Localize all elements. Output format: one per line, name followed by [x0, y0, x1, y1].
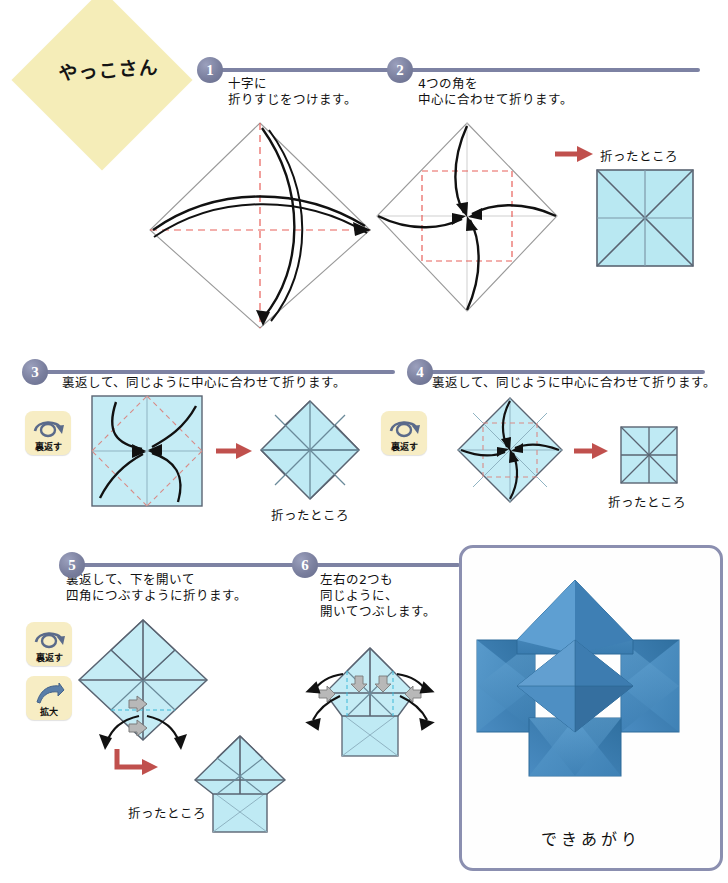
step-text-3: 裏返して、同じように中心に合わせて折ります。	[62, 375, 392, 391]
finished-origami-photo	[465, 562, 717, 812]
step-4-result-arrow	[572, 440, 610, 462]
step-text-5: 裏返して、下を開いて 四角につぶすように折ります。	[66, 572, 286, 604]
step-6-diagram	[285, 640, 455, 775]
step-2-result-arrow	[553, 143, 595, 165]
step-number-3: 3	[22, 359, 48, 385]
enlarge-arrow-icon	[33, 680, 65, 704]
step-rule-3	[35, 370, 395, 374]
step-5-result-arrow	[112, 745, 160, 783]
step-text-6: 左右の2つも 同じように、 開いてつぶします。	[320, 572, 470, 620]
flip-icon	[32, 415, 64, 439]
step-text-4: 裏返して、同じように中心に合わせて折ります。	[432, 375, 722, 391]
step-number-5: 5	[59, 552, 85, 578]
step-3-result-caption: 折ったところ	[271, 505, 349, 524]
result-photo-card: できあがり	[459, 545, 723, 871]
step-number-6: 6	[292, 552, 318, 578]
step-2-diagram	[372, 118, 562, 318]
step-number-2: 2	[387, 57, 413, 83]
step-3-result-shape	[258, 398, 362, 502]
photo-caption: できあがり	[462, 826, 720, 850]
step-5-result-caption: 折ったところ	[128, 803, 206, 822]
flip-over-badge-5: 裏返す	[26, 622, 72, 666]
step-4-result-caption: 折ったところ	[608, 492, 686, 511]
step-3-diagram	[88, 392, 206, 510]
flip-badge-label-5: 裏返す	[26, 651, 72, 664]
step-2-result-caption: 折ったところ	[600, 146, 678, 165]
step-rule-4	[420, 370, 705, 374]
step-rule-1	[210, 68, 390, 72]
flip-over-badge-4: 裏返す	[381, 411, 427, 455]
step-4-result-shape	[619, 425, 679, 485]
step-4-diagram	[455, 395, 565, 505]
enlarge-badge-label: 拡大	[26, 705, 72, 718]
step-2-result-shape	[595, 168, 695, 268]
step-text-1: 十字に 折りすじをつけます。	[228, 76, 398, 108]
step-number-4: 4	[407, 359, 433, 385]
flip-over-badge-3: 裏返す	[25, 411, 71, 455]
step-number-1: 1	[197, 57, 223, 83]
step-rule-2	[400, 68, 700, 72]
step-1-diagram	[145, 118, 375, 333]
flip-badge-label-4: 裏返す	[381, 440, 427, 453]
step-text-2: 4つの角を 中心に合わせて折ります。	[418, 76, 618, 108]
enlarge-badge-5: 拡大	[26, 676, 72, 720]
flip-badge-label-3: 裏返す	[25, 440, 71, 453]
flip-icon	[33, 626, 65, 650]
step-rule-6	[305, 563, 460, 567]
step-rule-5	[72, 563, 294, 567]
flip-icon	[388, 415, 420, 439]
step-3-result-arrow	[214, 440, 254, 462]
